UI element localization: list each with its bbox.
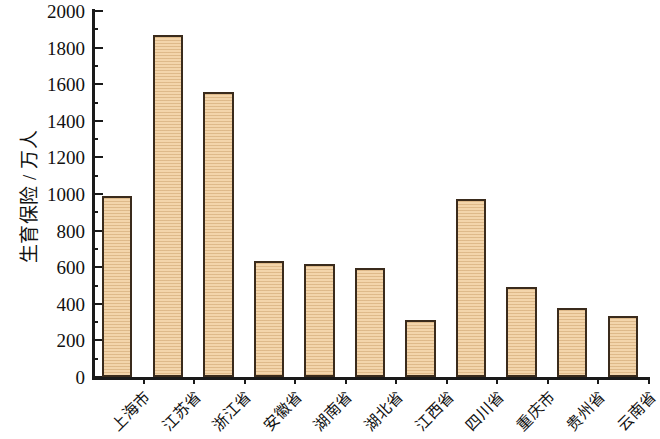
y-axis-tick-label: 400 [29,295,85,314]
bar [557,308,587,377]
x-axis-tick-label: 江西省 [409,385,458,434]
x-axis-tick-label: 四川省 [459,385,508,434]
bar [203,92,233,377]
y-axis-tick-label: 2000 [29,2,85,21]
bar [355,268,385,377]
x-axis-tick-label: 江苏省 [156,385,205,434]
y-axis-tick-label: 1000 [29,185,85,204]
x-axis-tick [648,377,650,384]
y-axis-tick-label: 200 [29,331,85,350]
bars-container [94,11,648,377]
x-axis-tick-label: 贵州省 [560,385,609,434]
y-axis-tick-label: 600 [29,258,85,277]
bar [506,287,536,377]
y-axis-tick-label: 1600 [29,75,85,94]
y-axis-tick-label: 1400 [29,112,85,131]
bar [153,35,183,377]
y-axis-tick-label: 0 [29,368,85,387]
y-axis-tick-labels: 0200400600800100012001400160018002000 [27,0,85,439]
bar [608,316,638,377]
x-axis-tick-label: 湖南省 [308,385,357,434]
y-axis-tick-label: 1200 [29,148,85,167]
y-axis-tick-label: 800 [29,222,85,241]
x-axis-tick-label: 湖北省 [358,385,407,434]
x-axis-tick-labels: 上海市江苏省浙江省安徽省湖南省湖北省江西省四川省重庆市贵州省云南省 [92,381,648,439]
bar [254,261,284,377]
x-axis-line [92,377,648,380]
bar [456,199,486,377]
x-axis-tick-label: 安徽省 [257,385,306,434]
x-axis-tick-label: 重庆市 [510,385,559,434]
x-axis-tick-label: 云南省 [611,385,660,434]
x-axis-tick-label: 浙江省 [206,385,255,434]
y-axis-tick-label: 1800 [29,39,85,58]
bar [304,264,334,377]
bar [405,320,435,377]
bar [102,196,132,377]
x-axis-tick-label: 上海市 [105,385,154,434]
